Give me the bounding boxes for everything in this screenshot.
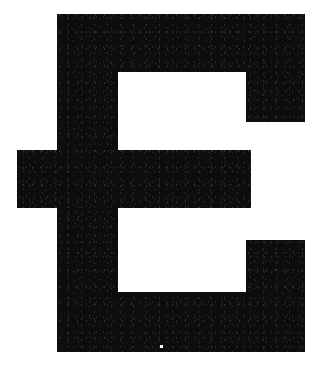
glyph-canvas: Bold sans-serif capital letter E: [0, 0, 323, 368]
letter-e-glyph: Bold sans-serif capital letter E: [0, 0, 323, 368]
